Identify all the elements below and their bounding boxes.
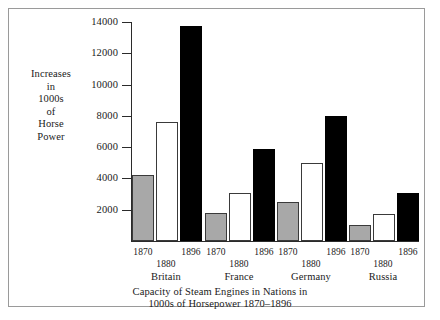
x-tick-label-britain-1880: 1880 (146, 259, 186, 270)
figure-caption-line: Capacity of Steam Engines in Nations in (70, 286, 370, 298)
bar-chart-figure: Increasesin1000sofHorsePower 14000120001… (0, 0, 440, 320)
y-tick-mark (122, 85, 132, 86)
y-tick-mark (122, 116, 132, 117)
bar-germany-1880 (301, 163, 323, 241)
bar-russia-1870 (349, 225, 371, 241)
bar-russia-1880 (373, 214, 395, 241)
x-tick-label-russia-1870: 1870 (343, 247, 377, 258)
x-tick-label-britain-1870: 1870 (126, 247, 160, 258)
bar-britain-1896 (180, 26, 202, 241)
country-label-britain: Britain (131, 271, 201, 283)
bar-russia-1896 (397, 193, 419, 241)
country-label-germany: Germany (276, 271, 346, 283)
x-tick-label-germany-1880: 1880 (291, 259, 331, 270)
y-tick-mark (122, 210, 132, 211)
country-label-france: France (204, 271, 274, 283)
y-tick-label: 8000 (72, 110, 118, 121)
y-tick-mark (122, 147, 132, 148)
y-tick-label: 6000 (72, 141, 118, 152)
bar-germany-1870 (277, 202, 299, 241)
bar-france-1880 (229, 193, 251, 241)
y-tick-label: 4000 (72, 172, 118, 183)
figure-caption-line: 1000s of Horsepower 1870–1896 (70, 298, 370, 310)
country-label-russia: Russia (348, 271, 418, 283)
x-tick-label-france-1870: 1870 (199, 247, 233, 258)
plot-area: 1400012000100008000600040002000187018801… (0, 0, 440, 320)
figure-caption: Capacity of Steam Engines in Nations in1… (70, 286, 370, 311)
bar-britain-1880 (156, 122, 178, 241)
x-axis-line (131, 241, 419, 242)
x-tick-label-france-1880: 1880 (219, 259, 259, 270)
y-tick-mark (122, 22, 132, 23)
bar-britain-1870 (132, 175, 154, 241)
bar-france-1870 (205, 213, 227, 241)
y-tick-label: 14000 (72, 16, 118, 27)
y-tick-mark (122, 53, 132, 54)
bar-france-1896 (253, 149, 275, 241)
y-tick-mark (122, 178, 132, 179)
x-tick-label-russia-1896: 1896 (391, 247, 425, 258)
y-tick-label: 2000 (72, 204, 118, 215)
y-tick-label: 12000 (72, 47, 118, 58)
x-tick-label-russia-1880: 1880 (363, 259, 403, 270)
bar-germany-1896 (325, 116, 347, 241)
x-tick-label-germany-1870: 1870 (271, 247, 305, 258)
y-tick-label: 10000 (72, 79, 118, 90)
